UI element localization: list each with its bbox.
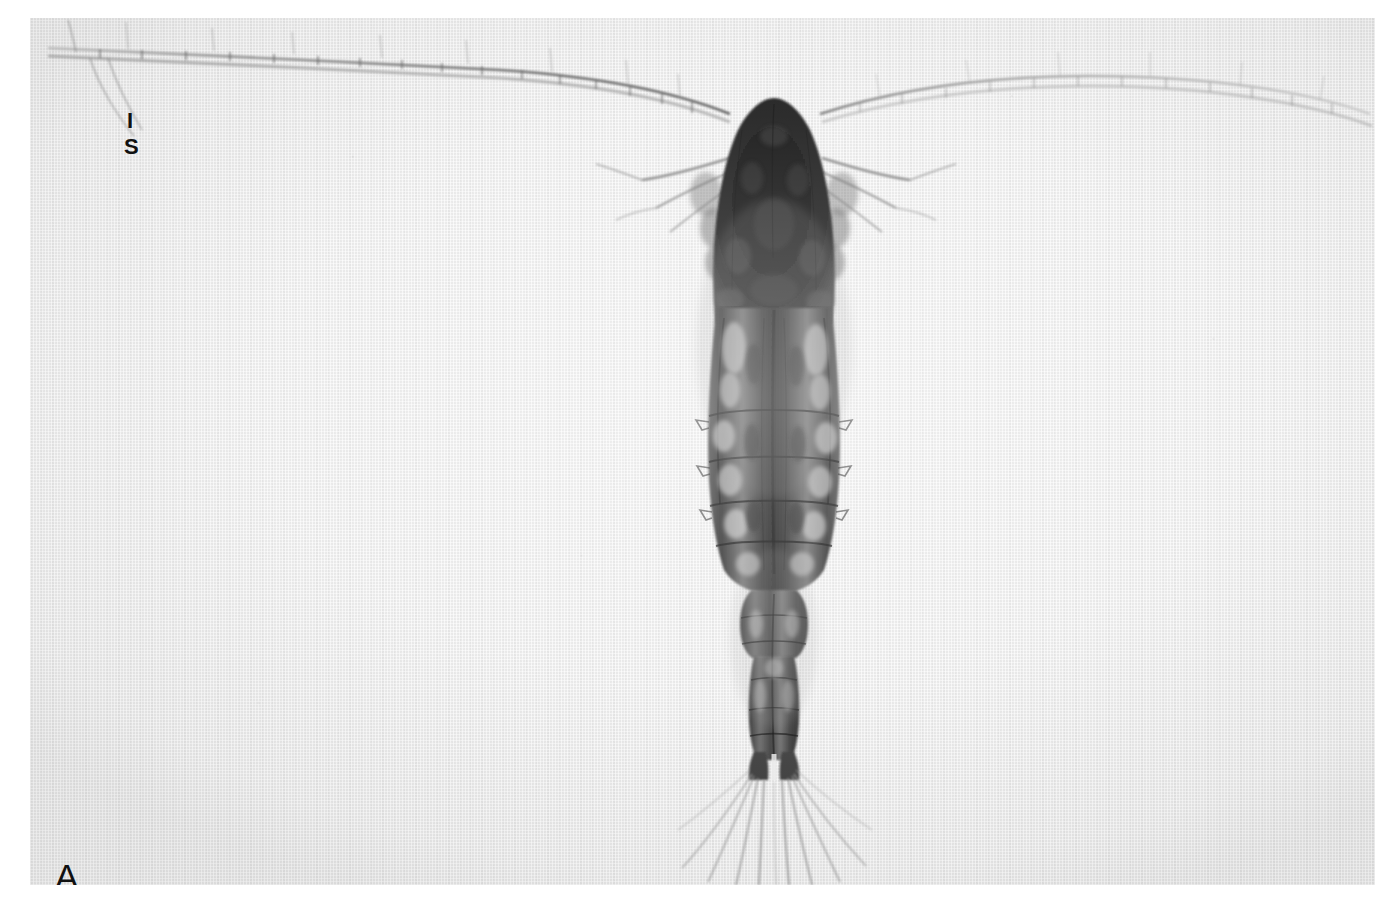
left-antennule-ventral-margin (48, 56, 730, 122)
photomicrograph-plate: I S A (30, 18, 1375, 885)
panel-label-a: A (55, 859, 78, 885)
caudal-setae (678, 770, 872, 885)
copepod-specimen-illustration (30, 18, 1375, 885)
right-antennule-segments (860, 76, 1332, 114)
caudal-ramus-right (780, 752, 800, 780)
caudal-rami (749, 752, 800, 780)
left-antennule-setae (126, 22, 680, 98)
right-second-antenna (819, 158, 956, 280)
landmark-label-i: I (127, 110, 133, 132)
right-antennule-group (820, 52, 1372, 126)
figure-root: I S A (0, 0, 1382, 908)
landmark-label-s: S (124, 136, 139, 158)
left-antennule-group (48, 20, 730, 136)
